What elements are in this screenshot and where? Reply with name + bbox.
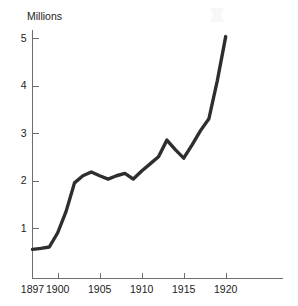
x-tick-label: 1900 — [46, 283, 70, 295]
x-tick-label: 1910 — [130, 283, 154, 295]
y-axis-title: Millions — [27, 10, 62, 22]
data-series-line — [33, 37, 226, 250]
x-tick-label: 1915 — [172, 283, 196, 295]
x-tick-label: 1920 — [214, 283, 238, 295]
x-tick-label: 1897 — [21, 283, 45, 295]
line-chart-svg: Millions 12345 189719001905191019151920 — [0, 0, 298, 306]
y-tick-label: 3 — [21, 127, 27, 139]
y-axis-ticks: 12345 — [21, 32, 39, 234]
chart-container: Millions 12345 189719001905191019151920 — [0, 0, 298, 306]
y-tick-label: 5 — [21, 32, 27, 44]
y-tick-label: 1 — [21, 222, 27, 234]
x-tick-label: 1905 — [88, 283, 112, 295]
y-tick-label: 4 — [21, 79, 27, 91]
y-tick-label: 2 — [21, 174, 27, 186]
x-axis-ticks: 189719001905191019151920 — [21, 273, 238, 296]
